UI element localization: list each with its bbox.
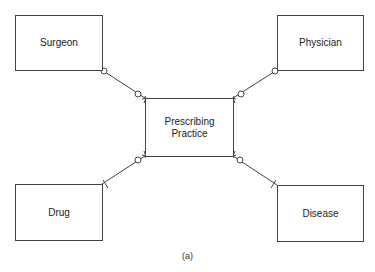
zero-marker-icon — [237, 157, 243, 163]
zero-marker-icon — [238, 91, 244, 97]
entity-prescribing-practice: Prescribing Practice — [145, 98, 234, 157]
entity-label: Drug — [48, 207, 70, 219]
entity-label: Disease — [302, 208, 338, 220]
figure-caption: (a) — [0, 251, 375, 261]
entity-label-line1: Prescribing — [164, 116, 214, 128]
entity-label-line2: Practice — [171, 128, 207, 140]
entity-label: Physician — [299, 37, 342, 49]
entity-physician: Physician — [277, 15, 364, 71]
zero-marker-icon — [135, 157, 141, 163]
entity-label: Surgeon — [40, 37, 78, 49]
entity-surgeon: Surgeon — [15, 15, 103, 71]
entity-drug: Drug — [15, 184, 103, 241]
entity-disease: Disease — [277, 185, 364, 242]
zero-marker-icon — [135, 91, 141, 97]
